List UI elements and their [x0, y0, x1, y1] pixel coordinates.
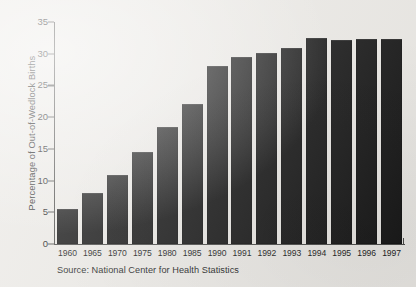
y-tick-mark: [48, 212, 54, 213]
x-tick-label: 1985: [180, 248, 205, 258]
y-tick-mark: [48, 148, 54, 149]
bar-highlight: [107, 175, 128, 176]
x-tick-label: 1960: [55, 248, 80, 258]
bar: [231, 57, 252, 244]
y-tick-mark: [48, 53, 54, 54]
bar-highlight: [207, 66, 228, 67]
x-tick-label: 1970: [105, 248, 130, 258]
bar-highlight: [57, 209, 78, 210]
y-tick-mark: [48, 117, 54, 118]
bar-highlight: [82, 193, 103, 194]
x-axis-line: [54, 244, 405, 245]
y-tick-mark: [48, 85, 54, 86]
x-axis-right-cap: [403, 238, 404, 245]
y-tick-label: 20: [26, 112, 48, 122]
x-tick-label: 1990: [205, 248, 230, 258]
bar-chart: Percentage of Out-of-Wedlock Births 0510…: [0, 0, 416, 287]
bar: [107, 175, 128, 244]
x-tick-label: 1975: [130, 248, 155, 258]
bar-highlight: [182, 104, 203, 105]
bar-highlight: [381, 39, 402, 40]
y-tick-label: 30: [26, 49, 48, 59]
x-tick-label: 1991: [230, 248, 255, 258]
y-tick-label: 0: [26, 239, 48, 249]
bar-highlight: [157, 127, 178, 128]
y-tick-label: 5: [26, 208, 48, 218]
x-tick-label: 1980: [155, 248, 180, 258]
bar: [207, 66, 228, 244]
bar-highlight: [281, 48, 302, 49]
x-tick-label: 1997: [379, 248, 404, 258]
bar: [281, 48, 302, 244]
x-tick-label: 1965: [80, 248, 105, 258]
bar-highlight: [306, 38, 327, 39]
y-tick-mark: [48, 244, 54, 245]
bar: [331, 40, 352, 244]
x-tick-label: 1992: [254, 248, 279, 258]
y-tick-mark: [48, 22, 54, 23]
bar: [256, 53, 277, 244]
chart-page: Percentage of Out-of-Wedlock Births 0510…: [0, 0, 416, 287]
x-tick-label: 1996: [354, 248, 379, 258]
bar-highlight: [356, 39, 377, 40]
bar-highlight: [231, 57, 252, 58]
y-axis-tick-labels: 05101520253035: [26, 0, 48, 287]
bar: [306, 38, 327, 244]
bar-highlight: [132, 152, 153, 153]
x-tick-label: 1994: [304, 248, 329, 258]
bar: [132, 152, 153, 244]
y-tick-label: 10: [26, 176, 48, 186]
bar: [157, 127, 178, 244]
y-tick-label: 25: [26, 81, 48, 91]
bar: [57, 209, 78, 244]
x-tick-label: 1995: [329, 248, 354, 258]
y-tick-label: 35: [26, 17, 48, 27]
y-tick-label: 15: [26, 144, 48, 154]
bar: [381, 39, 402, 244]
y-axis-line: [54, 22, 55, 245]
bar: [356, 39, 377, 244]
bar: [182, 104, 203, 244]
y-tick-mark: [48, 180, 54, 181]
x-tick-label: 1993: [279, 248, 304, 258]
bar-highlight: [256, 53, 277, 54]
bar-highlight: [331, 40, 352, 41]
source-caption: Source: National Center for Health Stati…: [57, 265, 239, 275]
bar: [82, 193, 103, 244]
